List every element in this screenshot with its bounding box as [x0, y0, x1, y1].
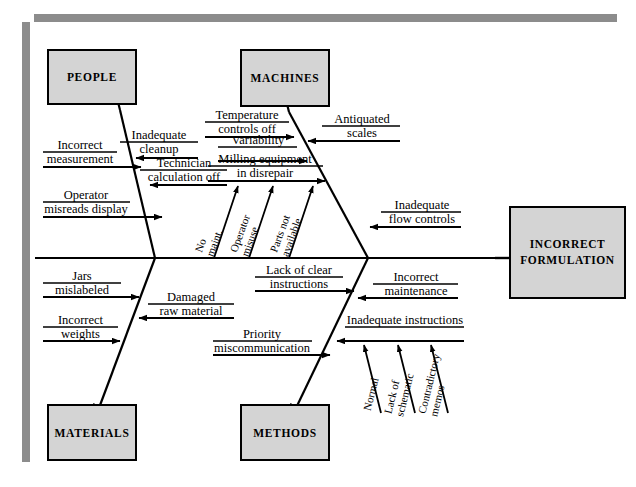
cause-line1: Variability: [218, 133, 298, 147]
cause-line1: Inadequate: [381, 198, 463, 212]
cause-line1: Temperature: [203, 108, 291, 122]
diagram-canvas: PEOPLE MACHINES MATERIALS METHODS INCORR…: [0, 0, 636, 487]
category-label-materials: MATERIALS: [54, 427, 129, 439]
category-box-methods[interactable]: METHODS: [240, 404, 330, 461]
cause-line2: mislabeled: [42, 283, 122, 297]
cause-label-inadequate-instructions[interactable]: Inadequate instructions: [345, 313, 465, 327]
cause-line2: misreads display: [40, 202, 132, 216]
cause-label-milling-equipment-in-disrepair[interactable]: Milling equipment in disrepair: [206, 152, 324, 180]
effect-label-line2: FORMULATION: [520, 253, 615, 269]
cause-label-damaged-raw-material[interactable]: Damaged raw material: [148, 290, 234, 318]
cause-line1: Operator: [40, 188, 132, 202]
cause-line1: Incorrect: [42, 313, 119, 327]
cause-label-jars-mislabeled[interactable]: Jars mislabeled: [42, 269, 122, 297]
category-box-machines[interactable]: MACHINES: [240, 49, 330, 107]
cause-line1: Inadequate: [120, 128, 198, 142]
cause-label-incorrect-weights[interactable]: Incorrect weights: [42, 313, 119, 341]
cause-label-lack-of-clear-instructions[interactable]: Lack of clear instructions: [254, 263, 344, 291]
cause-line1: Lack of clear: [254, 263, 344, 277]
cause-label-antiquated-scales[interactable]: Antiquated scales: [322, 112, 402, 140]
cause-line1: Jars: [42, 269, 122, 283]
cause-label-incorrect-maintenance[interactable]: Incorrect maintenance: [373, 270, 459, 298]
cause-line2: cleanup: [120, 142, 198, 156]
cause-line2: maintenance: [373, 284, 459, 298]
effect-box[interactable]: INCORRECT FORMULATION: [509, 206, 626, 299]
cause-line1: Antiquated: [322, 112, 402, 126]
cause-line1: Priority: [212, 327, 312, 341]
cause-label-inadequate-cleanup[interactable]: Inadequate cleanup: [120, 128, 198, 156]
cause-line1: Damaged: [148, 290, 234, 304]
cause-label-incorrect-measurement[interactable]: Incorrect measurement: [40, 138, 120, 166]
cause-label-variability[interactable]: Variability: [218, 133, 298, 147]
cause-line2: flow controls: [381, 212, 463, 226]
cause-line1: Incorrect: [373, 270, 459, 284]
cause-line1: Incorrect: [40, 138, 120, 152]
cause-line2: in disrepair: [206, 166, 324, 180]
category-box-people[interactable]: PEOPLE: [47, 49, 137, 105]
cause-line2: measurement: [40, 152, 120, 166]
cause-label-priority-miscommunication[interactable]: Priority miscommunication: [212, 327, 312, 355]
cause-line2: miscommunication: [212, 341, 312, 355]
category-label-machines: MACHINES: [251, 72, 320, 84]
cause-label-inadequate-flow-controls[interactable]: Inadequate flow controls: [381, 198, 463, 226]
cause-line1: Milling equipment: [206, 152, 324, 166]
effect-label-line1: INCORRECT: [530, 237, 606, 253]
cause-line2: raw material: [148, 304, 234, 318]
cause-line1: Inadequate instructions: [345, 313, 465, 327]
cause-label-temperature-controls-off[interactable]: Temperature controls off: [203, 108, 291, 136]
category-label-people: PEOPLE: [67, 71, 117, 83]
cause-line2: instructions: [254, 277, 344, 291]
cause-line2: weights: [42, 327, 119, 341]
category-box-materials[interactable]: MATERIALS: [47, 404, 137, 461]
cause-line2: scales: [322, 126, 402, 140]
cause-label-operator-misreads-display[interactable]: Operator misreads display: [40, 188, 132, 216]
category-label-methods: METHODS: [253, 427, 317, 439]
